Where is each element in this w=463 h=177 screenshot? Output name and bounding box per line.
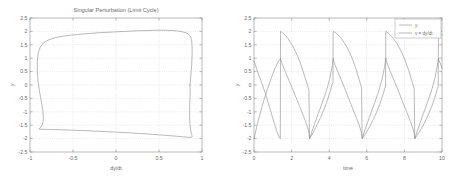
- svg-text:-2.5: -2.5: [19, 149, 28, 155]
- time-series-svg: 0246810 2.521.510.50-0.5-1-1.5-2-2.5 tim…: [232, 0, 463, 177]
- legend-label-v: v = dy/dt: [415, 31, 433, 36]
- svg-text:-1.5: -1.5: [19, 122, 28, 128]
- phase-portrait-svg: Singular Perturbation (Limit Cycle) -1-0…: [0, 0, 232, 177]
- svg-text:-0.5: -0.5: [19, 95, 28, 101]
- time-series-xlabel: time: [343, 165, 353, 171]
- svg-text:1: 1: [201, 155, 204, 161]
- svg-text:-1: -1: [247, 109, 252, 115]
- svg-text:0.5: 0.5: [20, 68, 27, 74]
- svg-text:10: 10: [439, 155, 445, 161]
- svg-text:-1: -1: [28, 155, 33, 161]
- phase-portrait-panel: Singular Perturbation (Limit Cycle) -1-0…: [0, 0, 232, 177]
- svg-text:-0.5: -0.5: [243, 95, 252, 101]
- svg-text:0: 0: [25, 82, 28, 88]
- svg-text:-2: -2: [247, 135, 252, 141]
- svg-text:2: 2: [290, 155, 293, 161]
- time-series-legend[interactable]: y v = dy/dt: [395, 19, 441, 38]
- svg-text:0.5: 0.5: [244, 68, 251, 74]
- svg-text:-2: -2: [23, 135, 28, 141]
- phase-portrait-y-ticklabels: 2.521.510.50-0.5-1-1.5-2-2.5: [19, 15, 28, 155]
- svg-text:0.5: 0.5: [155, 155, 162, 161]
- svg-text:4: 4: [328, 155, 331, 161]
- svg-text:1.5: 1.5: [20, 42, 27, 48]
- svg-text:6: 6: [365, 155, 368, 161]
- svg-text:0: 0: [253, 155, 256, 161]
- svg-text:0: 0: [115, 155, 118, 161]
- svg-text:-0.5: -0.5: [69, 155, 78, 161]
- svg-text:8: 8: [403, 155, 406, 161]
- svg-text:2: 2: [249, 28, 252, 34]
- svg-text:1.5: 1.5: [244, 42, 251, 48]
- phase-portrait-x-ticklabels: -1-0.500.51: [28, 155, 204, 161]
- phase-portrait-title: Singular Perturbation (Limit Cycle): [73, 7, 158, 13]
- series-v-curve: [254, 58, 442, 138]
- phase-portrait-ylabel: y: [9, 83, 15, 86]
- svg-text:2.5: 2.5: [20, 15, 27, 21]
- time-series-x-ticklabels: 0246810: [253, 155, 445, 161]
- time-series-y-ticklabels: 2.521.510.50-0.5-1-1.5-2-2.5: [243, 15, 252, 155]
- svg-text:0: 0: [249, 82, 252, 88]
- time-series-ylabel: y: [234, 83, 240, 86]
- svg-text:-1: -1: [23, 109, 28, 115]
- svg-text:2.5: 2.5: [244, 15, 251, 21]
- svg-text:1: 1: [249, 55, 252, 61]
- time-series-panel: 0246810 2.521.510.50-0.5-1-1.5-2-2.5 tim…: [232, 0, 463, 177]
- phase-portrait-xlabel: dy/dt: [110, 165, 122, 171]
- svg-text:2: 2: [25, 28, 28, 34]
- svg-text:-1.5: -1.5: [243, 122, 252, 128]
- series-y-curve: [254, 31, 442, 138]
- svg-text:-2.5: -2.5: [243, 149, 252, 155]
- limit-cycle-curve: [37, 30, 192, 137]
- svg-text:1: 1: [25, 55, 28, 61]
- matlab-figure-window: Singular Perturbation (Limit Cycle) -1-0…: [0, 0, 463, 177]
